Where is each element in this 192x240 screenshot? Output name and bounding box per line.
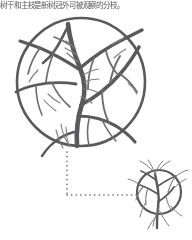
- large-circular-tree-diagram: [14, 12, 148, 156]
- tree-trunk-and-main-branches: [16, 24, 142, 156]
- figure-page: 树干和主枝是新树冠外可被观察的分枝。: [0, 0, 192, 240]
- figure-caption: 树干和主枝是新树冠外可被观察的分枝。: [0, 0, 179, 11]
- large-tree-svg: [14, 12, 148, 156]
- small-circular-tree-diagram: [126, 158, 192, 232]
- small-tree-svg: [126, 158, 192, 232]
